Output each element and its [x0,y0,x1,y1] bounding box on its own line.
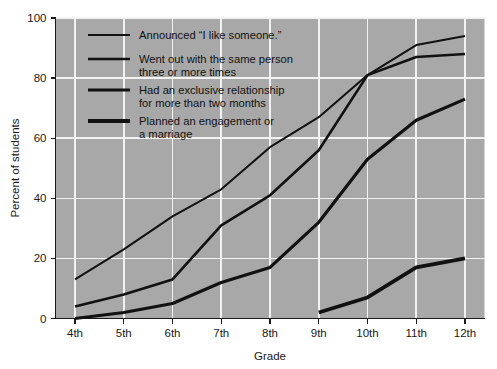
y-tick-label: 100 [27,12,46,24]
chart-figure: 020406080100 4th5th6th7th8th9th10th11th1… [0,0,497,369]
x-tick-label: 6th [165,327,181,339]
x-tick-label: 12th [454,327,476,339]
y-tick-label: 60 [34,132,47,144]
x-tick-label: 9th [311,327,327,339]
x-tick-label: 8th [262,327,278,339]
y-tick-label: 40 [34,192,47,204]
legend-label-4-line2: a marriage [139,128,192,140]
x-tick-label: 7th [213,327,229,339]
line-chart: 020406080100 4th5th6th7th8th9th10th11th1… [0,0,497,369]
y-tick-label: 80 [34,72,47,84]
legend-label-4: Planned an engagement or [139,115,274,127]
x-axis-tick-labels: 4th5th6th7th8th9th10th11th12th [67,327,476,339]
legend-label-2-line2: three or more times [139,66,236,78]
legend-label-1: Announced “I like someone.” [139,29,282,41]
x-tick-label: 11th [405,327,427,339]
y-tick-label: 0 [40,313,46,325]
legend-label-3: Had an exclusive relationship [139,84,285,96]
x-axis-title: Grade [254,350,286,362]
legend-label-3-line2: for more than two months [139,97,266,109]
x-tick-label: 10th [356,327,378,339]
x-tick-label: 5th [116,327,132,339]
y-tick-label: 20 [34,252,47,264]
y-axis-title: Percent of students [9,118,21,217]
legend-label-2: Went out with the same person [139,53,293,65]
x-tick-label: 4th [67,327,83,339]
